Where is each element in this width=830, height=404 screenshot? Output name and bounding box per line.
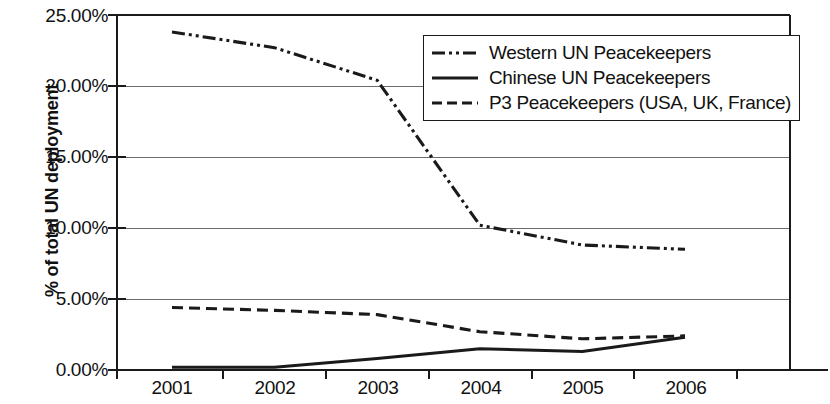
chart-figure: % of total UN deployment 0.00% 5.00% 10.… xyxy=(0,0,830,404)
dash-dot-dot-line-key xyxy=(431,45,479,61)
series-line-p3-peacekeepers xyxy=(172,308,685,339)
legend-item-chinese: Chinese UN Peacekeepers xyxy=(431,65,791,90)
chart-legend: Western UN Peacekeepers Chinese UN Peace… xyxy=(423,35,800,121)
legend-label-chinese: Chinese UN Peacekeepers xyxy=(489,68,710,87)
legend-label-western: Western UN Peacekeepers xyxy=(489,43,711,62)
legend-label-p3: P3 Peacekeepers (USA, UK, France) xyxy=(489,93,791,112)
x-tick-marks xyxy=(117,370,737,379)
series-line-chinese-un-peacekeepers xyxy=(172,337,685,367)
legend-item-western: Western UN Peacekeepers xyxy=(431,40,791,65)
solid-line-key xyxy=(431,70,479,86)
dashed-line-key xyxy=(431,95,479,111)
legend-item-p3: P3 Peacekeepers (USA, UK, France) xyxy=(431,90,791,115)
